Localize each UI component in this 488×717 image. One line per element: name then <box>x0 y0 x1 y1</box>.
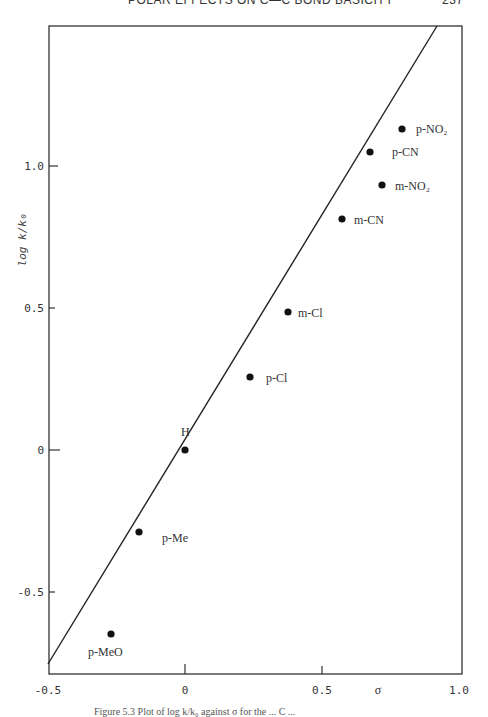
label-p-me: p-Me <box>162 531 188 545</box>
y-tick-label: 0.5 <box>24 302 44 315</box>
x-tick-label: 1.0 <box>449 684 469 697</box>
point-m-cl <box>284 308 291 315</box>
plot-frame <box>49 26 462 674</box>
y-tick-label: 1.0 <box>24 160 44 173</box>
y-axis-title: log k/k₀ <box>16 214 29 267</box>
figure-caption: Figure 5.3 Plot of log k/k₀ against σ fo… <box>94 706 295 717</box>
point-p-me <box>135 528 142 535</box>
regression-line <box>48 26 437 664</box>
point-h <box>181 446 188 453</box>
label-m-cn: m-CN <box>354 213 384 227</box>
label-p-no2: p-NO₂ <box>416 122 448 136</box>
label-m-no2: m-NO₂ <box>395 179 430 193</box>
label-p-meo: p-MeO <box>88 645 123 659</box>
point-p-cn <box>366 148 373 155</box>
point-m-no2 <box>378 181 385 188</box>
point-m-cn <box>338 215 345 222</box>
label-h: H <box>181 425 190 439</box>
x-tick-label: -0.5 <box>35 684 62 697</box>
data-points <box>107 125 405 637</box>
y-tick-label: -0.5 <box>18 586 45 599</box>
y-tick-label: 0 <box>37 444 44 457</box>
label-m-cl: m-Cl <box>298 306 323 320</box>
point-p-no2 <box>398 125 405 132</box>
x-axis-title: σ <box>375 683 382 697</box>
label-p-cl: p-Cl <box>266 371 288 385</box>
x-tick-label: 0.5 <box>312 684 332 697</box>
point-p-cl <box>246 373 253 380</box>
x-tick-label: 0 <box>182 684 189 697</box>
point-p-meo <box>107 630 114 637</box>
label-p-cn: p-CN <box>392 145 419 159</box>
